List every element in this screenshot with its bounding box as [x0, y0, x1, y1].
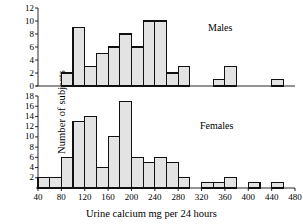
y-tick-label: 10 [6, 132, 34, 141]
y-tick-label: 8 [6, 30, 34, 39]
y-tick-label: 6 [6, 153, 34, 162]
y-tick-label: 2 [6, 173, 34, 182]
y-tick-label: 10 [6, 17, 34, 26]
y-tick-label: 14 [6, 112, 34, 121]
x-tick-label: 480 [283, 193, 303, 202]
y-tick-label: 12 [6, 4, 34, 13]
x-tick-label: 360 [213, 193, 237, 202]
y-tick-label: 16 [6, 102, 34, 111]
x-tick-label: 80 [49, 193, 73, 202]
x-tick-label: 280 [166, 193, 190, 202]
y-tick-label: 0 [6, 82, 34, 91]
histogram-figure: Number of subjects Urine calcium mg per … [0, 0, 303, 224]
y-tick-label: 4 [6, 56, 34, 65]
plot-area [0, 0, 303, 224]
x-tick-label: 240 [143, 193, 167, 202]
x-tick-label: 160 [96, 193, 120, 202]
y-tick-label: 8 [6, 143, 34, 152]
y-tick-label: 2 [6, 69, 34, 78]
x-tick-label: 400 [236, 193, 260, 202]
y-tick-label: 18 [6, 92, 34, 101]
x-tick-label: 200 [119, 193, 143, 202]
x-tick-label: 120 [73, 193, 97, 202]
y-tick-label: 12 [6, 122, 34, 131]
y-tick-label: 6 [6, 43, 34, 52]
y-tick-label: 4 [6, 163, 34, 172]
x-tick-label: 320 [190, 193, 214, 202]
x-tick-label: 440 [260, 193, 284, 202]
x-tick-label: 40 [26, 193, 50, 202]
